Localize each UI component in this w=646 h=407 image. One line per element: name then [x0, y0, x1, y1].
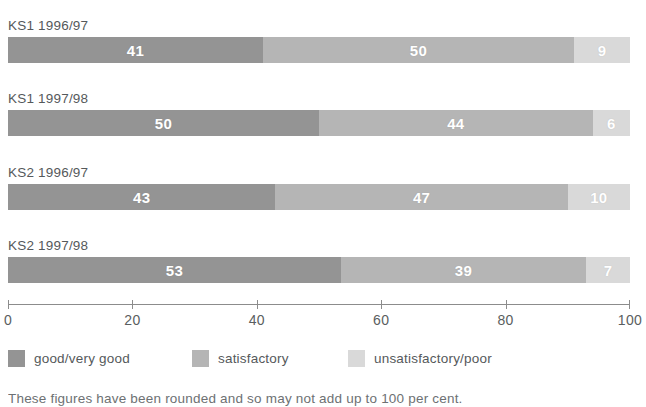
- bar-segment-value: 41: [127, 43, 144, 58]
- stacked-bar: 53397: [8, 257, 630, 283]
- bar-segment-value: 53: [166, 263, 183, 278]
- legend-swatch-icon: [192, 350, 209, 367]
- bar-row-label: KS2 1996/97: [8, 165, 88, 181]
- x-axis-tick: [381, 300, 382, 309]
- x-axis-tick: [257, 300, 258, 309]
- bar-segment: 9: [574, 37, 630, 63]
- x-axis-tick-label: 100: [618, 312, 642, 328]
- bar-segment: 41: [8, 37, 263, 63]
- bar-segment: 7: [586, 257, 630, 283]
- stacked-bar: 50446: [8, 110, 630, 136]
- bar-segment: 50: [8, 110, 319, 136]
- bar-segment-value: 50: [155, 116, 172, 131]
- bar-row-label: KS1 1996/97: [8, 18, 88, 34]
- x-axis-tick: [132, 300, 133, 309]
- bar-segment-value: 44: [447, 116, 464, 131]
- bar-segment-value: 6: [607, 116, 616, 131]
- bar-segment: 47: [275, 184, 567, 210]
- bar-segment-value: 47: [413, 190, 430, 205]
- x-axis-tick-label: 20: [124, 312, 140, 328]
- legend-item-label: good/very good: [34, 351, 130, 366]
- legend-item-label: satisfactory: [218, 351, 289, 366]
- bar-segment-value: 7: [604, 263, 613, 278]
- bar-segment: 10: [568, 184, 630, 210]
- bar-group: KS2 1997/9853397: [0, 238, 646, 283]
- bar-segment-value: 10: [590, 190, 607, 205]
- bar-segment-value: 9: [598, 43, 607, 58]
- legend-item: good/very good: [8, 350, 130, 367]
- bar-segment: 6: [593, 110, 630, 136]
- chart-caption: These figures have been rounded and so m…: [8, 391, 628, 407]
- bar-segment: 44: [319, 110, 593, 136]
- bar-row-label: KS1 1997/98: [8, 91, 88, 107]
- bar-row-label: KS2 1997/98: [8, 238, 88, 254]
- bar-segment: 39: [341, 257, 586, 283]
- x-axis: 020406080100: [8, 304, 630, 338]
- x-axis-tick: [629, 300, 630, 309]
- legend-item: satisfactory: [192, 350, 289, 367]
- x-axis-tick-label: 60: [373, 312, 389, 328]
- x-axis-tick-label: 40: [249, 312, 265, 328]
- bar-segment: 50: [263, 37, 574, 63]
- legend-item: unsatisfactory/poor: [348, 350, 492, 367]
- x-axis-tick-label: 80: [498, 312, 514, 328]
- x-axis-tick: [8, 300, 9, 309]
- legend-item-label: unsatisfactory/poor: [374, 351, 492, 366]
- x-axis-tick: [506, 300, 507, 309]
- legend-swatch-icon: [8, 350, 25, 367]
- bar-segment-value: 43: [133, 190, 150, 205]
- bar-group: KS1 1997/9850446: [0, 91, 646, 136]
- x-axis-line: [8, 304, 630, 305]
- bar-segment: 53: [8, 257, 341, 283]
- bar-segment: 43: [8, 184, 275, 210]
- stacked-bar-chart: KS1 1996/9741509KS1 1997/9850446KS2 1996…: [0, 0, 646, 407]
- stacked-bar: 41509: [8, 37, 630, 63]
- stacked-bar: 434710: [8, 184, 630, 210]
- bar-group: KS2 1996/97434710: [0, 165, 646, 210]
- chart-plot-area: KS1 1996/9741509KS1 1997/9850446KS2 1996…: [0, 0, 646, 300]
- bar-group: KS1 1996/9741509: [0, 18, 646, 63]
- bar-segment-value: 50: [410, 43, 427, 58]
- bar-segment-value: 39: [455, 263, 472, 278]
- x-axis-tick-label: 0: [4, 312, 12, 328]
- legend-swatch-icon: [348, 350, 365, 367]
